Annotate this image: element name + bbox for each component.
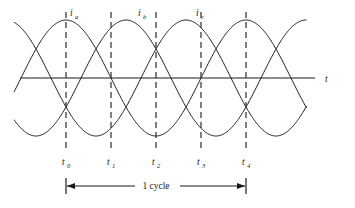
time-label-t3-base: t <box>197 157 200 167</box>
time-label-t3-sub: 3 <box>201 162 206 169</box>
cycle-dimension: 1 cycle <box>66 178 246 194</box>
time-label-t1-sub: 1 <box>112 162 115 169</box>
curve-label-ib-sub: b <box>143 13 147 20</box>
cycle-arrowhead-left <box>67 183 75 189</box>
time-label-t3: t 3 <box>197 157 206 169</box>
time-label-t0-sub: 0 <box>67 162 71 169</box>
curve-label-ic: i c <box>196 8 204 20</box>
axis-label-t: t <box>325 74 328 84</box>
time-marker-labels: t 0 t 1 t 2 t 3 t 4 <box>62 157 251 169</box>
time-label-t2-sub: 2 <box>157 162 161 169</box>
curve-label-ic-sub: c <box>201 13 204 20</box>
time-label-t2-base: t <box>152 157 155 167</box>
time-label-t1-base: t <box>107 157 110 167</box>
time-marker-lines <box>66 12 246 152</box>
curve-label-ic-base: i <box>196 8 199 18</box>
curve-label-ib: i b <box>138 8 147 20</box>
time-label-t4: t 4 <box>242 157 251 169</box>
time-label-t0: t 0 <box>62 157 71 169</box>
three-phase-waveform-figure: t i a i b i c t 0 t 1 t <box>0 0 355 208</box>
time-label-t1: t 1 <box>107 157 115 169</box>
time-label-t2: t 2 <box>152 157 161 169</box>
time-label-t4-base: t <box>242 157 245 167</box>
curve-label-ib-base: i <box>138 8 141 18</box>
curve-label-ia-base: i <box>70 8 73 18</box>
curve-labels: i a i b i c <box>70 8 204 20</box>
cycle-arrowhead-right <box>237 183 245 189</box>
cycle-label: 1 cycle <box>142 181 169 191</box>
time-label-t0-base: t <box>62 157 65 167</box>
curve-label-ia-sub: a <box>75 13 78 20</box>
curve-label-ia: i a <box>70 8 78 20</box>
time-label-t4-sub: 4 <box>247 162 251 169</box>
